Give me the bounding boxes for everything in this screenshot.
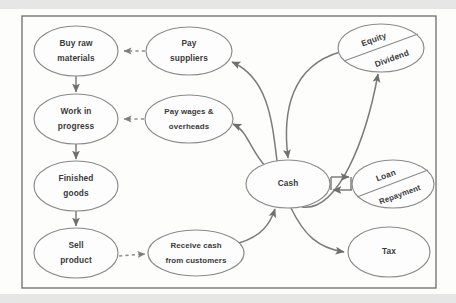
node-receive-cash-from-customers[interactable]: Receive cash from customers — [148, 230, 244, 276]
edge-receive-cash-to-cash — [239, 209, 275, 243]
node-pay-wages-overheads[interactable]: Pay wages & overheads — [145, 95, 233, 143]
edge-cash-to-tax — [291, 208, 344, 252]
node-equity-dividend[interactable]: Equity Dividend — [338, 24, 424, 72]
node-label-work-in-progress-line2: progress — [58, 121, 95, 131]
node-label-pay-suppliers-line2: suppliers — [170, 53, 208, 63]
node-tax[interactable]: Tax — [348, 227, 430, 277]
cash-flow-diagram: Buy raw materials Work in progress Finis… — [0, 0, 456, 303]
node-label-receive-cash-line1: Receive cash — [170, 241, 221, 250]
node-label-pay-wages-overheads-line2: overheads — [169, 122, 210, 131]
node-label-buy-raw-materials-line2: materials — [57, 53, 95, 63]
node-work-in-progress[interactable]: Work in progress — [34, 94, 118, 144]
edge-equity-to-cash — [286, 52, 340, 158]
node-label-pay-suppliers-line1: Pay — [181, 38, 196, 48]
diagram-canvas: Buy raw materials Work in progress Finis… — [0, 0, 456, 303]
edge-cash-to-pay-suppliers — [232, 62, 277, 161]
node-finished-goods[interactable]: Finished goods — [34, 161, 118, 211]
node-buy-raw-materials[interactable]: Buy raw materials — [34, 26, 118, 76]
scan-edge-top — [0, 0, 456, 9]
node-pay-suppliers[interactable]: Pay suppliers — [146, 27, 232, 75]
edge-sell-to-receive-cash — [119, 254, 145, 256]
node-sell-product[interactable]: Sell product — [34, 228, 118, 278]
node-label-buy-raw-materials-line1: Buy raw — [60, 38, 93, 48]
node-label-work-in-progress-line1: Work in — [61, 106, 92, 116]
node-label-finished-goods-line1: Finished — [59, 173, 94, 183]
node-label-cash: Cash — [278, 178, 299, 188]
node-cash[interactable]: Cash — [246, 160, 330, 208]
node-label-finished-goods-line2: goods — [63, 188, 89, 198]
node-label-sell-product-line1: Sell — [68, 240, 83, 250]
node-label-sell-product-line2: product — [60, 255, 92, 265]
node-label-pay-wages-overheads-line1: Pay wages & — [164, 107, 214, 116]
edge-cash-to-pay-wages — [233, 124, 266, 167]
node-label-receive-cash-line2: from customers — [165, 256, 227, 265]
scan-edge-bottom — [0, 294, 456, 303]
node-loan-repayment[interactable]: Loan Repayment — [352, 160, 434, 208]
node-label-tax: Tax — [382, 246, 396, 256]
